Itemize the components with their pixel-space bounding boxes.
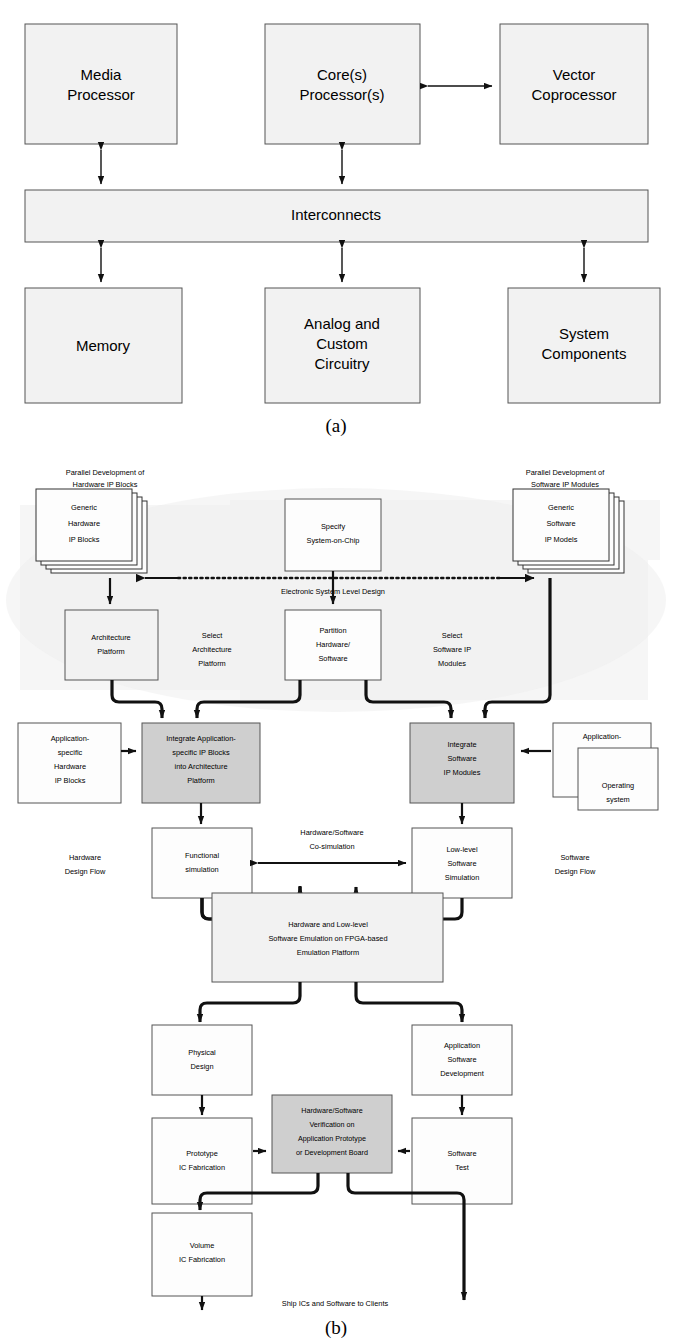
box-architecture-platform: Architecture Platform: [65, 610, 158, 680]
box-hardware-software-verification: Hardware/Software Verification on Applic…: [272, 1095, 392, 1173]
box-label: Development: [440, 1069, 484, 1078]
box-label: System-on-Chip: [307, 536, 360, 545]
box-label: Coprocessor: [531, 86, 616, 103]
svg-text:Software IP: Software IP: [433, 645, 471, 654]
box-label: Application-: [583, 732, 622, 741]
box-label: Generic: [71, 503, 97, 512]
box-label: System: [559, 325, 609, 342]
svg-text:Parallel Development of: Parallel Development of: [526, 468, 605, 477]
svg-text:Select: Select: [442, 631, 463, 640]
box-label: Integrate: [447, 740, 476, 749]
box-partition-hardware-software: Partition Hardware/ Software: [285, 610, 381, 680]
box-prototype-ic-fabrication: Prototype IC Fabrication: [152, 1118, 252, 1204]
box-media-processor: Media Processor: [25, 24, 177, 144]
box-generic-software-ip-models: Generic Software IP Models: [513, 489, 624, 573]
box-label: IC Fabrication: [179, 1163, 225, 1172]
box-label: Circuitry: [315, 355, 370, 372]
svg-text:Hardware/Software: Hardware/Software: [300, 828, 363, 837]
figure-b-caption: (b): [325, 1317, 347, 1338]
svg-text:Design Flow: Design Flow: [555, 867, 596, 876]
label-parallel-software: Parallel Development of Software IP Modu…: [526, 468, 605, 489]
svg-text:Hardware: Hardware: [69, 853, 101, 862]
svg-text:Platform: Platform: [198, 659, 226, 668]
svg-text:Architecture: Architecture: [192, 645, 231, 654]
box-label: Platform: [97, 647, 125, 656]
box-label: Software Emulation on FPGA-based: [268, 934, 387, 943]
box-label: specific: [58, 748, 83, 757]
box-label: Low-level: [446, 845, 478, 854]
box-label: IC Fabrication: [179, 1255, 225, 1264]
figure-a-caption: (a): [325, 415, 346, 437]
svg-text:Parallel Development of: Parallel Development of: [66, 468, 145, 477]
box-low-level-software-simulation: Low-level Software Simulation: [412, 828, 512, 898]
box-label: Functional: [185, 851, 219, 860]
box-label: Vector: [553, 66, 596, 83]
box-label: Processor: [67, 86, 135, 103]
box-application-software-development: Application Software Development: [412, 1025, 512, 1095]
box-label: Generic: [548, 503, 574, 512]
box-label: IP Modules: [444, 768, 481, 777]
box-label: Verification on: [309, 1120, 354, 1129]
figure-a-group: Media Processor Core(s) Processor(s) Vec…: [25, 24, 660, 437]
box-label: Partition: [319, 626, 346, 635]
box-label: Media: [81, 66, 123, 83]
box-label: Custom: [316, 335, 368, 352]
box-label: IP Blocks: [55, 776, 86, 785]
box-volume-ic-fabrication: Volume IC Fabrication: [152, 1213, 252, 1296]
connector-emulation-to-app-sw-development: [356, 982, 462, 1022]
box-label: Processor(s): [299, 86, 384, 103]
box-label: Specify: [321, 522, 346, 531]
box-physical-design: Physical Design: [152, 1025, 252, 1095]
box-software-test: Software Test: [412, 1118, 512, 1204]
connector-emulation-to-physical-design: [200, 982, 300, 1022]
box-label: Architecture: [91, 633, 130, 642]
box-functional-simulation: Functional simulation: [152, 828, 252, 898]
box-label: Hardware and Low-level: [288, 920, 368, 929]
box-label: Core(s): [317, 66, 367, 83]
box-label: into Architecture: [175, 762, 228, 771]
box-label: Platform: [187, 776, 215, 785]
box-integrate-software-ip-modules: Integrate Software IP Modules: [410, 723, 514, 803]
svg-text:Software IP Modules: Software IP Modules: [531, 480, 599, 489]
box-label: Software: [447, 1149, 476, 1158]
box-emulation-platform: Hardware and Low-level Software Emulatio…: [212, 893, 443, 982]
box-core-processors: Core(s) Processor(s): [265, 24, 420, 144]
box-label: Emulation Platform: [297, 948, 359, 957]
box-label: Memory: [76, 337, 131, 354]
label-co-simulation: Hardware/Software Co-simulation: [300, 828, 363, 851]
box-generic-hardware-ip-blocks: Generic Hardware IP Blocks: [36, 489, 147, 573]
box-label: system: [606, 795, 629, 804]
box-label: IP Blocks: [69, 535, 100, 544]
box-label: Analog and: [304, 315, 380, 332]
box-label: Hardware/: [316, 640, 351, 649]
box-interconnects: Interconnects: [25, 190, 648, 242]
box-label: Software: [447, 1055, 476, 1064]
box-system-components: System Components: [508, 288, 660, 403]
label-software-design-flow: Software Design Flow: [555, 853, 596, 876]
connector-verification-to-ship-software: [348, 1173, 464, 1300]
box-label: Hardware: [54, 762, 86, 771]
box-application-specific-hardware-ip-blocks: Application- specific Hardware IP Blocks: [18, 723, 121, 803]
svg-text:Co-simulation: Co-simulation: [309, 842, 354, 851]
box-label: Software: [546, 519, 575, 528]
box-label: Prototype: [186, 1149, 218, 1158]
box-specify-system-on-chip: Specify System-on-Chip: [285, 499, 381, 571]
box-label: specific IP Blocks: [172, 748, 230, 757]
svg-text:Hardware IP Blocks: Hardware IP Blocks: [73, 480, 138, 489]
box-label: Simulation: [445, 873, 480, 882]
box-memory: Memory: [25, 288, 182, 403]
box-label: Physical: [188, 1048, 216, 1057]
svg-text:Select: Select: [202, 631, 223, 640]
box-label: Components: [541, 345, 626, 362]
svg-text:Modules: Modules: [438, 659, 466, 668]
box-label: Volume: [190, 1241, 215, 1250]
box-label: Software: [447, 754, 476, 763]
box-label: Hardware: [68, 519, 100, 528]
box-operating-system: Operating system: [578, 748, 658, 810]
label-ship-ics: Ship ICs and Software to Clients: [282, 1299, 389, 1308]
box-label: Operating: [602, 781, 634, 790]
box-label: Software: [318, 654, 347, 663]
box-analog-custom: Analog and Custom Circuitry: [265, 288, 420, 403]
box-label: Application-: [51, 734, 90, 743]
svg-text:Design Flow: Design Flow: [65, 867, 106, 876]
